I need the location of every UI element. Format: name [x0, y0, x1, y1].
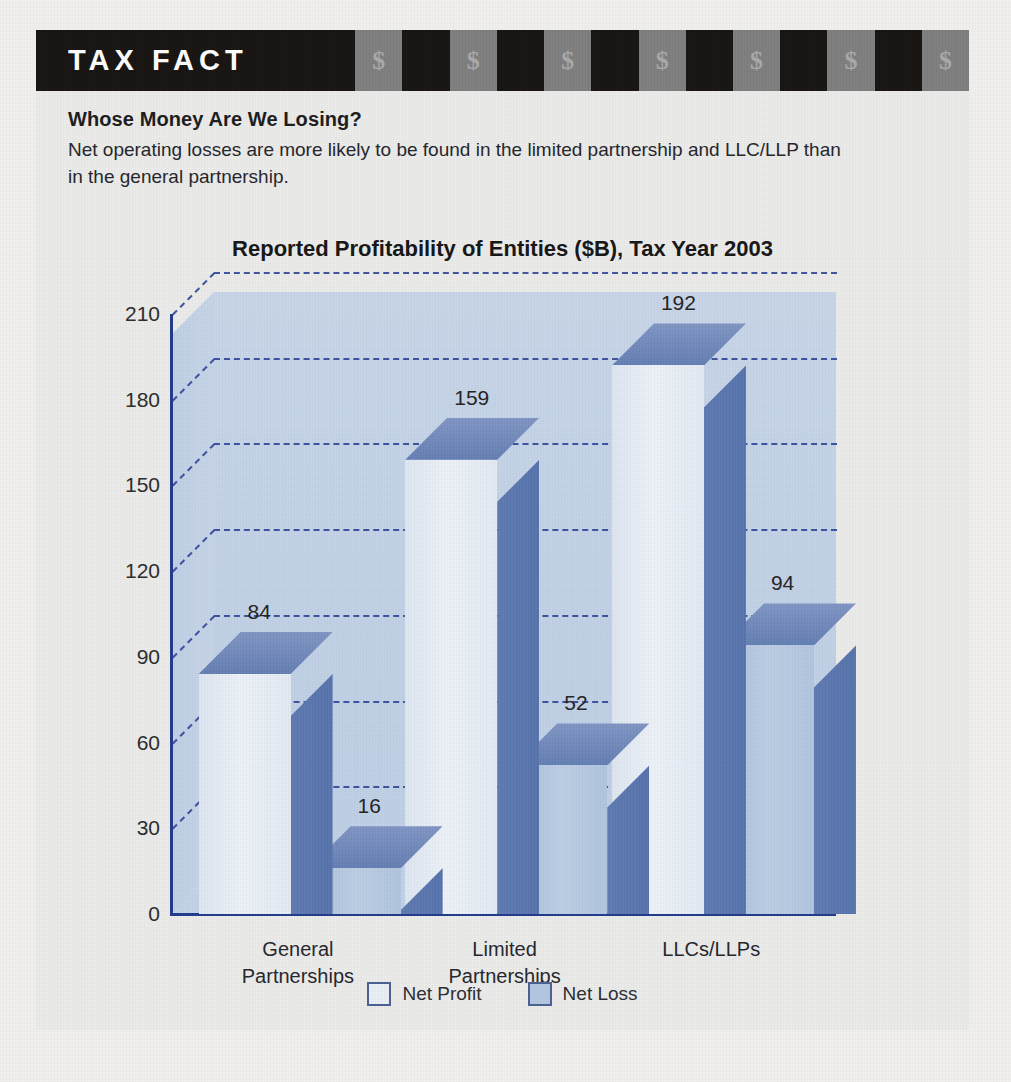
banner-stripe: $ — [355, 30, 402, 91]
bar-front-face — [199, 674, 291, 914]
banner-stripe — [875, 30, 922, 91]
bar-side-face — [497, 460, 539, 914]
bar-side-face — [704, 365, 746, 914]
dollar-sign-icon: $ — [656, 46, 669, 76]
chart-legend: Net ProfitNet Loss — [36, 982, 969, 1006]
y-axis-tick-label: 210 — [90, 302, 160, 326]
banner-stripe: $ — [450, 30, 497, 91]
article-text: Whose Money Are We Losing? Net operating… — [68, 108, 928, 191]
banner-stripe: $ — [733, 30, 780, 91]
legend-swatch — [528, 982, 552, 1006]
banner-stripe — [591, 30, 638, 91]
banner-stripe — [497, 30, 544, 91]
legend-label: Net Profit — [402, 983, 481, 1005]
banner-stripe — [780, 30, 827, 91]
gridline-horizontal — [214, 272, 837, 274]
banner-title: TAX FACT — [36, 30, 308, 91]
article-body: Net operating losses are more likely to … — [68, 137, 858, 191]
article-heading: Whose Money Are We Losing? — [68, 108, 928, 131]
banner-stripe: $ — [827, 30, 874, 91]
y-axis-tick-label: 120 — [90, 559, 160, 583]
y-axis-line — [170, 314, 173, 915]
gridline-horizontal — [214, 358, 837, 360]
dollar-sign-icon: $ — [372, 46, 385, 76]
y-axis-tick-label: 180 — [90, 388, 160, 412]
bar-value-label: 52 — [564, 691, 587, 715]
banner-stripe — [308, 30, 355, 91]
bar-value-label: 94 — [771, 571, 794, 595]
tax-fact-card: TAX FACT $$$$$$$ Whose Money Are We Losi… — [36, 30, 969, 1030]
banner-stripe: $ — [639, 30, 686, 91]
legend-item[interactable]: Net Loss — [528, 982, 638, 1006]
y-axis-labels: 0306090120150180210 — [82, 278, 160, 978]
dollar-sign-icon: $ — [467, 46, 480, 76]
banner-stripe: $ — [922, 30, 969, 91]
bar-chart: 94192521591684 0306090120150180210 LLCs/… — [36, 278, 969, 978]
x-axis-label-line: General — [175, 936, 422, 963]
bar-value-label: 192 — [661, 291, 696, 315]
bar-net-profit — [199, 632, 291, 914]
banner-stripe — [686, 30, 733, 91]
dollar-sign-icon: $ — [845, 46, 858, 76]
banner-stripe — [402, 30, 449, 91]
bar-side-face — [814, 645, 856, 914]
bar-value-label: 159 — [454, 386, 489, 410]
dollar-sign-icon: $ — [750, 46, 763, 76]
dollar-sign-icon: $ — [561, 46, 574, 76]
plot-area: 94192521591684 0306090120150180210 LLCs/… — [36, 278, 969, 978]
dollar-sign-icon: $ — [939, 46, 952, 76]
legend-swatch — [367, 982, 391, 1006]
legend-label: Net Loss — [563, 983, 638, 1005]
y-axis-tick-label: 150 — [90, 473, 160, 497]
tax-fact-banner: TAX FACT $$$$$$$ — [36, 30, 969, 91]
legend-item[interactable]: Net Profit — [367, 982, 481, 1006]
bar-value-label: 16 — [358, 794, 381, 818]
y-axis-tick-label: 60 — [90, 731, 160, 755]
bar-value-label: 84 — [248, 600, 271, 624]
banner-stripe-pattern: $$$$$$$ — [308, 30, 969, 91]
y-axis-tick-label: 0 — [90, 902, 160, 926]
chart-title: Reported Profitability of Entities ($B),… — [36, 236, 969, 262]
y-axis-tick-label: 30 — [90, 816, 160, 840]
bar-side-face — [291, 674, 333, 914]
banner-stripe: $ — [544, 30, 591, 91]
y-axis-tick-label: 90 — [90, 645, 160, 669]
